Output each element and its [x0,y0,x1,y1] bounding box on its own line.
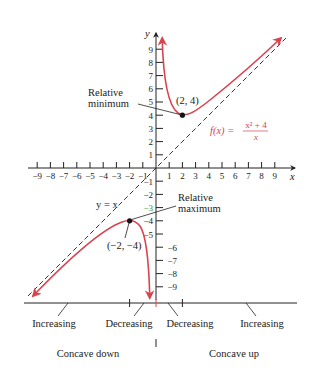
svg-text:9: 9 [149,45,154,55]
relative-maximum-label-line2: maximum [178,203,221,214]
svg-text:−7: −7 [59,171,69,181]
svg-text:−5: −5 [85,171,95,181]
svg-text:x: x [253,132,258,142]
svg-text:6: 6 [233,171,238,181]
svg-text:Decreasing: Decreasing [105,318,153,329]
svg-text:8: 8 [149,58,154,68]
asymptote-label: y = x [96,199,118,210]
svg-text:5: 5 [220,171,225,181]
svg-text:4: 4 [207,171,212,181]
concavity-labels: Concave down Concave up [57,348,259,359]
graph-canvas: −9 −8 −7 −6 −5 −4 −3 −2 −1 1 2 3 4 5 6 7… [0,0,318,384]
y-axis-label: y [144,28,150,39]
svg-text:2: 2 [180,171,185,181]
relative-minimum-point-label: (2, 4) [176,95,199,107]
x-tick-labels: −9 −8 −7 −6 −5 −4 −3 −2 −1 1 2 3 4 5 6 7… [32,171,277,181]
svg-text:2: 2 [149,137,154,147]
svg-text:−6: −6 [167,243,177,253]
svg-text:−3: −3 [112,171,122,181]
svg-text:−2: −2 [143,190,153,200]
svg-text:−7: −7 [167,256,177,266]
svg-text:Increasing: Increasing [32,318,76,329]
relative-maximum-label-line1: Relative [178,192,213,203]
svg-text:−1: −1 [143,177,153,187]
relative-maximum-point [127,218,132,223]
svg-text:−8: −8 [46,171,56,181]
svg-text:3: 3 [193,171,198,181]
svg-text:−6: −6 [72,171,82,181]
relative-minimum-label-line2: minimum [88,98,129,109]
svg-text:7: 7 [246,171,251,181]
svg-text:8: 8 [259,171,264,181]
svg-text:−4: −4 [143,216,153,226]
relative-minimum-point [180,113,185,118]
svg-text:−8: −8 [167,269,177,279]
svg-text:Concave down: Concave down [57,348,120,359]
svg-text:−2: −2 [125,171,135,181]
mono-leader-4 [246,303,256,316]
monotonicity-labels: Increasing Decreasing Decreasing Increas… [32,318,284,329]
svg-text:4: 4 [149,111,154,121]
svg-text:9: 9 [273,171,278,181]
svg-text:3: 3 [149,124,154,134]
svg-text:Increasing: Increasing [240,318,284,329]
svg-text:−4: −4 [98,171,108,181]
max-label-leader [130,206,176,220]
svg-text:f(x) =: f(x) = [210,125,234,137]
asymptote-line [28,38,286,296]
svg-text:−9: −9 [32,171,42,181]
svg-text:6: 6 [149,84,154,94]
svg-text:1: 1 [149,150,154,160]
svg-text:5: 5 [149,97,154,107]
svg-text:Concave up: Concave up [209,348,259,359]
x-axis-label: x [289,171,295,182]
relative-maximum-point-label: (−2, −4) [107,240,142,252]
svg-text:Decreasing: Decreasing [166,318,214,329]
svg-text:−3: −3 [143,203,153,213]
mono-leader-3 [168,303,178,316]
svg-text:−9: −9 [167,282,177,292]
relative-minimum-label-line1: Relative [88,87,123,98]
max-point-leader [125,221,130,238]
svg-text:x² + 4: x² + 4 [245,120,267,130]
mono-leader-2 [134,303,144,316]
svg-text:7: 7 [149,71,154,81]
mono-leader-1 [58,303,68,316]
function-label: f(x) = x² + 4 x [210,120,268,142]
svg-text:1: 1 [167,171,172,181]
